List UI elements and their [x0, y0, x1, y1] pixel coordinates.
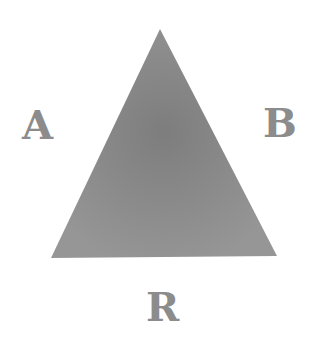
label-a: A [22, 105, 53, 145]
label-b: B [263, 103, 297, 143]
label-r: R [146, 287, 179, 327]
triangle-shape [51, 29, 277, 258]
